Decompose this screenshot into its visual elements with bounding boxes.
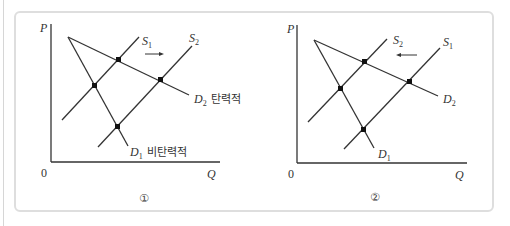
equilibrium-dot <box>362 59 367 64</box>
origin-label: 0 <box>288 167 294 181</box>
supply-s1-line <box>62 37 139 120</box>
arrow-head-left-icon <box>396 53 401 57</box>
origin-label: 0 <box>41 166 47 180</box>
panel-caption: ② <box>370 191 380 204</box>
equilibrium-dot <box>338 86 343 91</box>
panel-2 <box>297 25 467 163</box>
supply-right-label: S2 <box>189 31 199 47</box>
demand-elastic-line <box>314 40 438 96</box>
panel-2-equilibria <box>338 59 412 132</box>
supply-right-label: S1 <box>443 35 453 51</box>
y-axis-label: P <box>286 22 295 36</box>
demand-elastic-label: D2탄력적 <box>193 92 241 108</box>
equilibrium-dot <box>115 124 120 129</box>
y-axis-label: P <box>39 21 48 35</box>
arrow-head-right-icon <box>159 52 164 56</box>
equilibrium-dot <box>92 83 97 88</box>
equilibrium-dot <box>407 79 412 84</box>
equilibrium-dot <box>116 57 121 62</box>
demand-elastic-label: D2 <box>442 92 456 108</box>
supply-left-label: S1 <box>142 34 152 50</box>
supply-demand-diagrams: P 0 Q S1 S2 D2탄력적 D1비탄력적 ① P 0 Q S2 S1 D… <box>0 0 510 226</box>
panel-caption: ① <box>139 192 149 205</box>
demand-inelastic-label: D1비탄력적 <box>129 145 187 161</box>
supply-s2-line <box>98 46 192 147</box>
demand-inelastic-label: D1 <box>377 147 391 163</box>
equilibrium-dot <box>361 127 366 132</box>
supply-s1-line <box>344 48 440 149</box>
equilibrium-dot <box>158 77 163 82</box>
demand-elastic-line <box>68 37 189 95</box>
demand-inelastic-line <box>68 37 128 146</box>
x-axis-label: Q <box>207 167 216 181</box>
x-axis-label: Q <box>455 168 464 182</box>
supply-left-label: S2 <box>393 33 403 49</box>
panel-1-equilibria <box>92 57 163 129</box>
